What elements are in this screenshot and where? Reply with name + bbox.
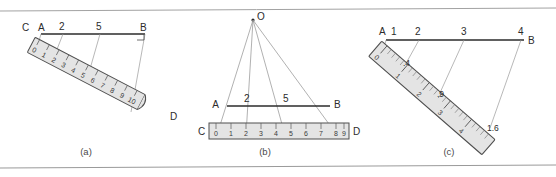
label-o-b: O: [257, 11, 265, 22]
tick-value-0-4-c: .4: [403, 58, 410, 68]
ruler-b-num-9: 9: [342, 130, 346, 137]
ruler-b-num-7: 7: [319, 130, 323, 137]
label-b-c: B: [528, 35, 535, 46]
ruler-b-num-1: 1: [229, 130, 233, 137]
geometry-figure: 0 1 2 3 4 5 6 7 8 9 10 C A 2 5 B D: [0, 0, 556, 177]
label-c-b: C: [198, 126, 205, 137]
caption-b: (b): [259, 146, 271, 157]
ruler-b-num-4: 4: [274, 130, 278, 137]
ruler-b-num-8: 8: [334, 130, 338, 137]
label-a-a: A: [38, 22, 45, 33]
label-top-4-c: 4: [518, 26, 524, 37]
tick-value-0-9-c: .9: [437, 89, 444, 99]
ruler-b-num-6: 6: [304, 130, 308, 137]
label-c-a: C: [22, 22, 29, 33]
ruler-b-num-2: 2: [244, 130, 248, 137]
ruler-b: 0 1 2 3 4 5 6 7 8 9: [209, 123, 349, 139]
label-b-a: B: [140, 22, 147, 33]
label-top-2-c: 2: [415, 26, 421, 37]
label-d-b: D: [353, 126, 360, 137]
ruler-b-num-3: 3: [259, 130, 263, 137]
label-top-3-c: 3: [461, 26, 467, 37]
label-div5-a: 5: [96, 21, 102, 32]
ruler-b-num-5: 5: [289, 130, 293, 137]
label-d-a: D: [170, 111, 177, 122]
tick-value-1-6-c: 1.6: [487, 123, 499, 133]
label-div5-b: 5: [283, 93, 289, 104]
label-a-c: A: [379, 26, 386, 37]
label-div2-a: 2: [59, 21, 65, 32]
label-b-b: B: [334, 99, 341, 110]
label-div2-b: 2: [244, 93, 250, 104]
label-a-b: A: [212, 99, 219, 110]
caption-c: (c): [443, 146, 454, 157]
figure-root: 0 1 2 3 4 5 6 7 8 9 10 C A 2 5 B D: [0, 0, 556, 177]
caption-a: (a): [80, 146, 92, 157]
ruler-b-num-0: 0: [214, 130, 218, 137]
label-top-1-c: 1: [391, 26, 397, 37]
